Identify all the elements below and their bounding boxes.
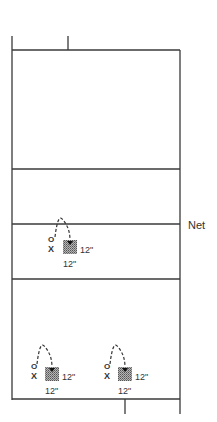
drill-bottom-left: O X 12" 12" bbox=[31, 345, 75, 396]
side-label: 12" bbox=[80, 245, 93, 255]
net-label: Net bbox=[188, 219, 205, 231]
x-mark: X bbox=[48, 244, 54, 254]
side-label: 12" bbox=[62, 372, 75, 382]
dashed-arc-arrow-icon bbox=[37, 345, 52, 367]
bottom-label: 12" bbox=[45, 386, 58, 396]
drill-bottom-right: O X 12" 12" bbox=[104, 345, 148, 396]
dashed-arc-arrow-icon bbox=[110, 345, 125, 367]
dashed-arc-arrow-icon bbox=[55, 218, 70, 240]
o-mark: O bbox=[31, 362, 37, 371]
bottom-label: 12" bbox=[118, 386, 131, 396]
drill-top: O X 12" 12" bbox=[48, 218, 93, 269]
court-outline bbox=[12, 36, 180, 414]
volleyball-court-diagram: Net O X 12" 12" O X 12" 12" O X 12" 12" bbox=[0, 0, 217, 422]
bottom-label: 12" bbox=[63, 259, 76, 269]
o-mark: O bbox=[48, 235, 54, 244]
side-label: 12" bbox=[135, 372, 148, 382]
o-mark: O bbox=[104, 362, 110, 371]
x-mark: X bbox=[31, 371, 37, 381]
x-mark: X bbox=[104, 371, 110, 381]
